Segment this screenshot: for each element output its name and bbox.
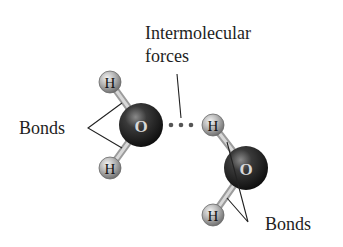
intermolecular-leader-line [177,74,181,118]
hydrogen-atom-left-top: H [99,71,121,93]
atom-symbol: H [105,161,116,177]
atom-symbol: O [134,117,147,136]
bonds-label-left: Bonds [19,117,65,139]
atom-symbol: H [208,118,219,134]
intermolecular-label-line2: forces [145,45,189,67]
atom-symbol: O [239,160,252,179]
atom-symbol: H [105,75,116,91]
oxygen-atom-right: O [224,146,268,190]
bonds-left-leader [88,103,122,148]
hydrogen-atom-right-top: H [202,114,224,136]
intermolecular-force-dots [169,123,194,128]
oxygen-atom-left: O [119,103,163,147]
water-diagram: H O H O H [0,0,343,247]
hydrogen-atom-right-bottom: H [202,204,224,226]
right-water-molecule: O H H [202,114,268,226]
bonds-label-right: Bonds [265,213,311,235]
atom-symbol: H [208,208,219,224]
intermolecular-label-line1: Intermolecular [145,22,251,44]
left-water-molecule: H O H [99,71,163,179]
hydrogen-atom-left-bottom: H [99,157,121,179]
